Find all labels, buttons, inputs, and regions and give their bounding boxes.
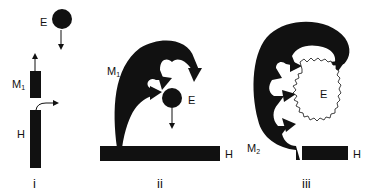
numeral-iii: iii	[302, 176, 311, 191]
numeral-ii: ii	[157, 176, 163, 191]
label-e: E	[40, 16, 47, 28]
label-m1: M1	[107, 65, 120, 78]
h-block	[30, 110, 41, 168]
entity-e-blob	[293, 58, 341, 121]
label-h: H	[17, 128, 25, 140]
numeral-i: i	[33, 176, 36, 191]
h-curve-arrow	[36, 103, 56, 110]
m1-arrowhead-1	[188, 68, 202, 82]
entity-e-ball	[52, 9, 72, 29]
label-e: E	[320, 88, 327, 100]
panel-ii: H M1 E ii	[100, 41, 233, 191]
label-h: H	[225, 148, 233, 160]
label-m1: M1	[12, 78, 25, 91]
entity-e-ball	[162, 88, 182, 108]
m1-block	[30, 71, 41, 98]
label-e: E	[188, 94, 195, 106]
m1-arrowhead-2	[158, 76, 172, 90]
panel-i: E M1 H i	[12, 9, 72, 191]
h-bar	[302, 146, 348, 160]
m1-arrowhead-3	[150, 86, 162, 100]
panel-iii: E M2 H iii	[247, 22, 361, 191]
label-m2: M2	[247, 142, 260, 155]
diagram: E M1 H i H M1 E ii E M2	[0, 0, 372, 193]
label-h: H	[353, 148, 361, 160]
h-bar	[100, 146, 220, 161]
